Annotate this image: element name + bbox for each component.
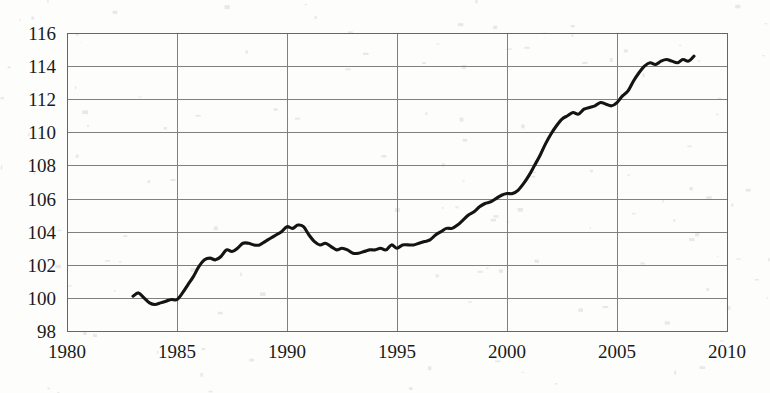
y-axis-tick-labels: 98100102104106108110112114116 bbox=[28, 23, 57, 342]
chart-canvas: 98100102104106108110112114116 1980198519… bbox=[0, 0, 770, 393]
line-chart: 98100102104106108110112114116 1980198519… bbox=[0, 0, 770, 393]
y-tick-label-98: 98 bbox=[37, 321, 56, 342]
y-tick-label-104: 104 bbox=[28, 222, 57, 243]
y-tick-label-114: 114 bbox=[28, 56, 56, 77]
x-tick-label-2000: 2000 bbox=[488, 341, 526, 362]
y-tick-label-108: 108 bbox=[28, 155, 57, 176]
data-series-line bbox=[133, 56, 694, 304]
y-tick-label-116: 116 bbox=[28, 23, 56, 44]
vertical-gridlines bbox=[178, 33, 618, 331]
x-tick-label-1985: 1985 bbox=[158, 341, 196, 362]
x-axis-tick-labels: 1980198519901995200020052010 bbox=[48, 341, 746, 362]
y-tick-label-106: 106 bbox=[28, 189, 57, 210]
scan-noise bbox=[1, 0, 770, 393]
y-tick-label-102: 102 bbox=[28, 255, 57, 276]
y-tick-label-110: 110 bbox=[28, 122, 56, 143]
x-tick-label-1995: 1995 bbox=[378, 341, 416, 362]
x-tick-label-2010: 2010 bbox=[708, 341, 746, 362]
x-tick-label-1990: 1990 bbox=[268, 341, 306, 362]
y-tick-label-112: 112 bbox=[28, 89, 56, 110]
x-tick-label-1980: 1980 bbox=[48, 341, 86, 362]
x-tick-label-2005: 2005 bbox=[598, 341, 636, 362]
y-tick-label-100: 100 bbox=[28, 288, 57, 309]
